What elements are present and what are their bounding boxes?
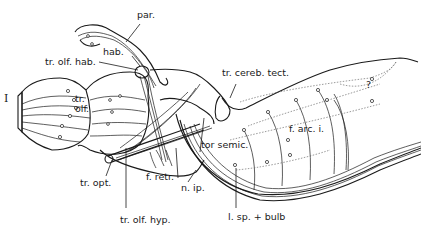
label-olf: olf. xyxy=(75,104,89,114)
olfactory-bulb xyxy=(18,78,90,150)
label-par: par. xyxy=(137,10,155,20)
diagram-drawing xyxy=(0,0,421,236)
label-roman-i: I xyxy=(4,93,8,104)
label-tor-semic: tor semic. xyxy=(201,140,248,150)
label-n-ip: n. ip. xyxy=(181,183,205,193)
label-l-sp-bulb: l. sp. + bulb xyxy=(228,212,285,222)
label-tr-olf-hab: tr. olf. hab. xyxy=(45,57,96,67)
label-f-arc-i: f. arc. i. xyxy=(289,124,324,134)
brain-diagram: par. hab. tr. olf. hab. I tr. olf. tr. c… xyxy=(0,0,421,236)
fiber-bundles xyxy=(120,76,200,168)
label-tr-cereb-tect: tr. cereb. tect. xyxy=(222,68,289,78)
label-hab: hab. xyxy=(103,47,124,57)
label-question: ? xyxy=(366,80,371,90)
label-tr-olf-hyp: tr. olf. hyp. xyxy=(120,215,171,225)
label-tr-opt: tr. opt. xyxy=(80,178,111,188)
label-f-retr: f. retr. xyxy=(146,172,174,182)
